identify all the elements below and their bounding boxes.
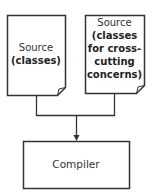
- source-crosscutting-line3: for cross-: [85, 42, 144, 55]
- source-classes-label: Source (classes): [7, 41, 65, 67]
- compiler-label: Compiler: [23, 158, 129, 171]
- arrowhead-icon: [74, 135, 80, 141]
- source-crosscutting-line2: (classes: [85, 29, 144, 42]
- source-crosscutting-line4: cutting: [85, 55, 144, 68]
- source-crosscutting-line1: Source: [85, 16, 144, 29]
- source-classes-line2: (classes): [7, 54, 65, 67]
- source-crosscutting-line5: concerns): [85, 68, 144, 81]
- merge-connector: [37, 94, 115, 142]
- source-classes-line1: Source: [7, 41, 65, 54]
- source-crosscutting-label: Source (classes for cross- cutting conce…: [85, 16, 144, 81]
